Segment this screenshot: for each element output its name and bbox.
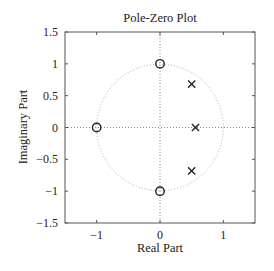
x-axis-label: Real Part — [137, 241, 184, 255]
x-tick-labels: −101 — [90, 228, 226, 242]
y-tick-label: 0.5 — [43, 89, 58, 103]
pole-zero-chart: Pole-Zero Plot −101 1.510.50−0.5−1−1.5 R… — [0, 0, 274, 271]
y-tick-label: 1.5 — [43, 25, 58, 39]
x-tick-label: 1 — [220, 228, 226, 242]
x-tick-label: 0 — [157, 228, 163, 242]
chart-title: Pole-Zero Plot — [123, 11, 197, 25]
y-tick-labels: 1.510.50−0.5−1−1.5 — [36, 25, 58, 230]
y-axis-label: Imaginary Part — [16, 89, 30, 164]
plot-area — [65, 32, 255, 223]
y-tick-label: 0 — [52, 121, 58, 135]
x-tick-label: −1 — [90, 228, 103, 242]
y-tick-label: −0.5 — [36, 152, 58, 166]
y-tick-label: −1.5 — [36, 216, 58, 230]
y-tick-label: −1 — [45, 184, 58, 198]
y-tick-label: 1 — [52, 57, 58, 71]
